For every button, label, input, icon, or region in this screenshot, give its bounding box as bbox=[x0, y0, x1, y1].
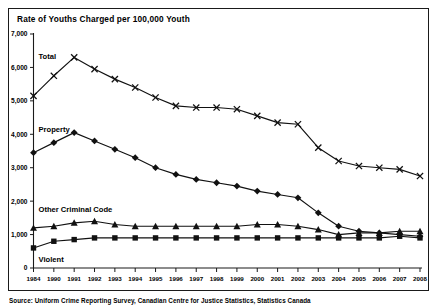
series-marker-violent bbox=[377, 235, 382, 240]
x-axis-tick-label: 1992 bbox=[88, 275, 102, 282]
x-axis-tick-label: 2007 bbox=[393, 275, 407, 282]
y-axis-tick-label: 0 bbox=[24, 264, 28, 271]
series-marker-violent bbox=[336, 235, 341, 240]
x-axis-tick-label: 2006 bbox=[372, 275, 386, 282]
series-marker-total bbox=[132, 84, 138, 90]
series-marker-violent bbox=[31, 245, 36, 250]
series-marker-violent bbox=[194, 235, 199, 240]
series-marker-violent bbox=[133, 235, 138, 240]
series-line-violent bbox=[34, 236, 421, 248]
series-label-property: Property bbox=[39, 125, 71, 134]
series-marker-violent bbox=[356, 235, 361, 240]
x-axis-tick-label: 1998 bbox=[210, 275, 224, 282]
series-marker-property bbox=[335, 223, 342, 230]
series-marker-property bbox=[172, 171, 179, 178]
series-marker-property bbox=[152, 164, 159, 171]
series-marker-violent bbox=[275, 235, 280, 240]
series-marker-property bbox=[213, 179, 220, 186]
series-marker-total bbox=[112, 76, 118, 82]
x-axis-tick-label: 2002 bbox=[291, 275, 305, 282]
x-axis-tick-label: 1990 bbox=[47, 275, 61, 282]
series-line-other-criminal-code bbox=[34, 221, 421, 234]
series-marker-property bbox=[254, 188, 261, 195]
x-axis-tick-label: 1999 bbox=[230, 275, 244, 282]
series-marker-total bbox=[71, 54, 77, 60]
series-marker-violent bbox=[316, 235, 321, 240]
y-axis-tick-label: 4,000 bbox=[11, 131, 28, 139]
series-marker-violent bbox=[112, 235, 117, 240]
series-marker-total bbox=[254, 113, 260, 119]
series-marker-violent bbox=[234, 235, 239, 240]
series-marker-property bbox=[111, 146, 118, 153]
series-marker-property bbox=[274, 191, 281, 198]
x-axis-tick-label: 1994 bbox=[128, 275, 142, 282]
series-marker-violent bbox=[295, 235, 300, 240]
x-axis-tick-label: 1996 bbox=[169, 275, 183, 282]
series-marker-property bbox=[50, 139, 57, 146]
y-axis-tick-label: 1,000 bbox=[11, 231, 28, 239]
series-marker-property bbox=[71, 129, 78, 136]
y-axis-tick-label: 7,000 bbox=[11, 30, 28, 38]
series-marker-violent bbox=[417, 235, 422, 240]
x-axis-tick-label: 2001 bbox=[271, 275, 285, 282]
series-marker-violent bbox=[214, 235, 219, 240]
series-line-property bbox=[34, 133, 421, 237]
x-axis-tick-label: 1991 bbox=[67, 275, 81, 282]
x-axis-tick-label: 2005 bbox=[352, 275, 366, 282]
x-axis-tick-label: 2008 bbox=[413, 275, 427, 282]
series-marker-property bbox=[193, 176, 200, 183]
series-marker-violent bbox=[173, 235, 178, 240]
series-marker-total bbox=[417, 173, 423, 179]
series-marker-total bbox=[51, 73, 57, 79]
y-axis-tick-label: 6,000 bbox=[11, 64, 28, 72]
chart-source-note: Source: Uniform Crime Reporting Survey, … bbox=[9, 297, 434, 305]
series-marker-violent bbox=[153, 235, 158, 240]
series-marker-violent bbox=[397, 234, 402, 239]
series-marker-violent bbox=[255, 235, 260, 240]
series-line-total bbox=[34, 57, 421, 176]
y-axis-tick-label: 2,000 bbox=[11, 198, 28, 206]
series-marker-total bbox=[315, 145, 321, 151]
x-axis-tick-label: 2003 bbox=[311, 275, 325, 282]
x-axis-tick-label: 1995 bbox=[149, 275, 163, 282]
series-label-other-criminal-code: Other Criminal Code bbox=[39, 205, 113, 214]
x-axis-tick-label: 2004 bbox=[332, 275, 346, 282]
series-marker-property bbox=[91, 138, 98, 145]
series-marker-property bbox=[132, 154, 139, 161]
series-label-violent: Violent bbox=[39, 255, 65, 264]
chart-plot-area: 7,0006,0005,0004,0003,0002,0001,00001984… bbox=[0, 0, 437, 308]
x-axis-tick-label: 1997 bbox=[189, 275, 203, 282]
y-axis-tick-label: 3,000 bbox=[11, 164, 28, 172]
x-axis-tick-label: 1984 bbox=[27, 275, 41, 282]
series-marker-property bbox=[30, 149, 37, 156]
series-marker-property bbox=[234, 183, 241, 190]
series-label-total: Total bbox=[39, 52, 57, 61]
x-axis-tick-label: 2000 bbox=[250, 275, 264, 282]
chart-figure: Rate of Youths Charged per 100,000 Youth… bbox=[0, 0, 437, 308]
series-marker-total bbox=[152, 94, 158, 100]
y-axis-tick-label: 5,000 bbox=[11, 97, 28, 105]
series-marker-violent bbox=[71, 237, 76, 242]
series-marker-violent bbox=[92, 235, 97, 240]
x-axis-tick-label: 1993 bbox=[108, 275, 122, 282]
series-marker-violent bbox=[51, 239, 56, 244]
series-marker-total bbox=[91, 66, 97, 72]
